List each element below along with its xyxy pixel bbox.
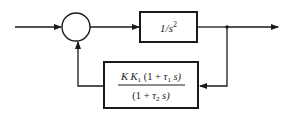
feedback-path-left: [78, 42, 104, 86]
feedback-numerator: K K1 (1 + τ1 s): [120, 71, 182, 84]
summing-junction: [62, 13, 90, 41]
forward-block-label: 1/s2: [160, 20, 177, 34]
feedback-path-right: [200, 27, 227, 86]
feedback-denominator: (1 + τ2 s): [132, 90, 170, 103]
block-diagram: 1/s2 K K1 (1 + τ1 s) (1 + τ2 s): [0, 0, 292, 118]
